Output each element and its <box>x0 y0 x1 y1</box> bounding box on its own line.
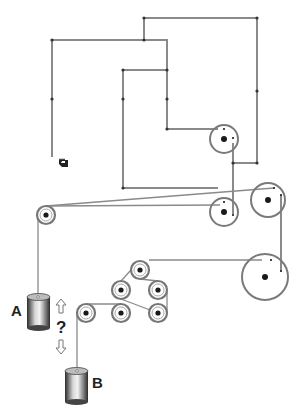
weight-a <box>27 294 50 332</box>
weight-b-label: B <box>92 374 103 391</box>
large-pulley-axles <box>221 136 271 280</box>
pulley-diagram <box>0 0 301 416</box>
thin-ropes <box>38 188 274 371</box>
junction-dots <box>50 16 258 189</box>
inner-rope <box>123 70 218 188</box>
weight-b <box>65 368 88 406</box>
rope-paths <box>52 18 281 272</box>
pulley-cluster-mid-right <box>149 281 167 299</box>
pointing-hand-icon <box>59 159 68 167</box>
pulley-left-guide <box>37 206 55 224</box>
pulley-cluster-bot-left <box>112 304 130 322</box>
pulley-cluster-top <box>131 261 149 279</box>
down-arrow-icon <box>56 340 66 354</box>
pulley-cluster-bot-right <box>149 304 167 322</box>
pulley-cluster-mid-left <box>112 281 130 299</box>
inner-top-link <box>144 40 167 70</box>
weight-a-label: A <box>11 302 22 319</box>
up-arrow-icon <box>56 299 66 313</box>
question-mark: ? <box>56 318 66 338</box>
pulley-b-guide <box>77 304 95 322</box>
